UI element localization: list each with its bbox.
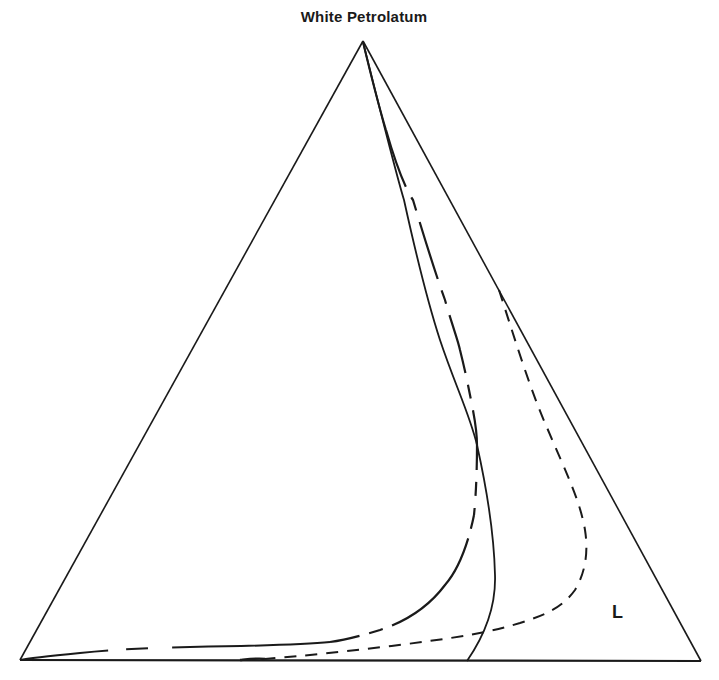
triangle-outline [20,41,701,661]
solid-boundary-curve [363,42,495,661]
short-dash-boundary-curve [265,290,586,659]
short-dash-base-join [240,659,265,660]
right-edge [363,41,701,661]
left-edge [20,41,363,660]
region-label-l: L [612,602,623,623]
long-dash-boundary-base [20,642,330,660]
ternary-diagram [0,0,719,680]
base-edge [20,660,701,661]
long-dash-boundary-lower [330,515,474,642]
vertex-label-top: White Petrolatum [254,8,474,25]
long-dash-boundary-upper-solid [363,42,386,130]
